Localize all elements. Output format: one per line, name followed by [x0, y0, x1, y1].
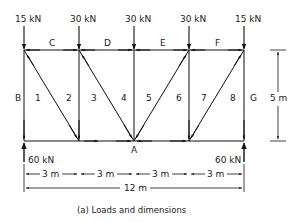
- load-label-4: 30 kN: [180, 14, 206, 24]
- space-label-a: A: [131, 145, 138, 155]
- load-label-1: 15 kN: [15, 14, 41, 24]
- space-label-3: 3: [91, 93, 97, 103]
- space-label-1: 1: [35, 93, 41, 103]
- space-label-7: 7: [201, 93, 207, 103]
- space-label-5: 5: [146, 93, 152, 103]
- space-label-d: D: [104, 38, 111, 48]
- space-label-c: C: [49, 38, 55, 48]
- panel-dimension-labels: 3 m 3 m 3 m 3 m 12 m: [42, 169, 224, 193]
- height-label: 5 m: [270, 93, 287, 103]
- load-label-5: 15 kN: [235, 14, 261, 24]
- reaction-label-left: 60 kN: [28, 155, 54, 165]
- reaction-label-right: 60 kN: [215, 155, 241, 165]
- span-label: 12 m: [124, 183, 147, 193]
- truss-members: [24, 50, 244, 141]
- load-labels: 15 kN 30 kN 30 kN 30 kN 15 kN: [15, 14, 261, 24]
- space-label-b: B: [15, 93, 21, 103]
- svg-text:3 m: 3 m: [42, 169, 59, 179]
- load-label-3: 30 kN: [125, 14, 151, 24]
- space-label-4: 4: [121, 93, 127, 103]
- space-label-e: E: [160, 38, 166, 48]
- space-label-2: 2: [66, 93, 72, 103]
- space-label-g: G: [250, 93, 257, 103]
- space-label-f: F: [215, 38, 220, 48]
- svg-text:3 m: 3 m: [207, 169, 224, 179]
- load-arrows: [24, 26, 244, 49]
- space-label-8: 8: [230, 93, 236, 103]
- truss-diagram: 15 kN 30 kN 30 kN 30 kN 15 kN: [0, 0, 301, 222]
- space-label-6: 6: [176, 93, 182, 103]
- svg-text:3 m: 3 m: [152, 169, 169, 179]
- svg-text:3 m: 3 m: [97, 169, 114, 179]
- load-label-2: 30 kN: [70, 14, 96, 24]
- figure-caption: (a) Loads and dimensions: [77, 205, 187, 215]
